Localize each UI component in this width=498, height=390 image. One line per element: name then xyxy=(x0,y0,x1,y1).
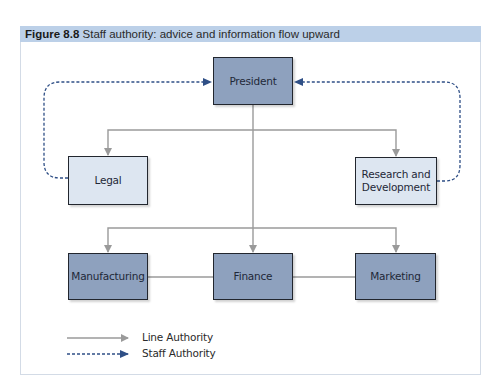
line-to-manufacturing xyxy=(108,228,253,252)
line-to-marketing xyxy=(253,228,396,252)
node-manufacturing: Manufacturing xyxy=(68,253,148,300)
legend-line-authority-label: Line Authority xyxy=(142,331,213,343)
legend-staff-authority-label: Staff Authority xyxy=(142,347,216,359)
node-president-label: President xyxy=(229,75,276,88)
node-marketing: Marketing xyxy=(355,253,436,300)
node-research: Research and Development xyxy=(355,157,437,205)
node-research-label: Research and Development xyxy=(361,168,431,194)
node-legal: Legal xyxy=(68,156,148,205)
node-finance-label: Finance xyxy=(234,270,273,283)
line-to-research xyxy=(253,130,396,156)
node-president: President xyxy=(213,57,293,105)
node-marketing-label: Marketing xyxy=(370,270,421,283)
node-finance: Finance xyxy=(213,253,293,300)
node-manufacturing-label: Manufacturing xyxy=(71,270,144,283)
line-to-legal xyxy=(108,130,253,155)
node-legal-label: Legal xyxy=(94,174,121,187)
